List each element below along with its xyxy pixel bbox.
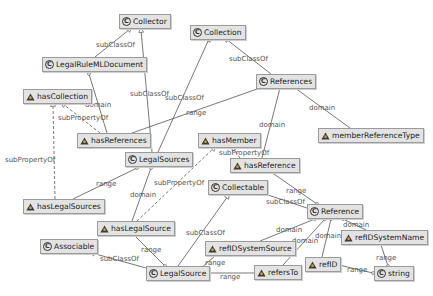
class-icon: C [377,269,386,278]
class-icon: C [45,60,54,69]
edge-label-subclassof: subClassOf [130,90,169,98]
node-label: Collection [204,28,242,37]
node-has-legal-source[interactable]: hasLegalSource [97,221,175,236]
object-property-icon [257,269,266,277]
node-label: LegalRuleMLDocument [56,60,143,69]
object-property-icon [26,93,35,101]
class-icon: C [128,155,137,164]
node-has-collection[interactable]: hasCollection [23,89,92,104]
node-label: refIDSystemName [355,233,424,242]
edge-label-subclassof: subClassOf [186,229,225,237]
node-label: refID [319,260,337,269]
node-label: refIDSystemSource [219,244,292,253]
edge-label-domain: domain [315,232,341,240]
node-label: hasReferences [91,136,147,145]
edge-label-subpropertyof: subPropertyOf [5,156,55,164]
edge-label-domain: domain [130,191,156,199]
edge-label-range: range [347,266,367,274]
edge-label-range: range [186,109,206,117]
node-label: Associable [54,242,94,251]
node-references[interactable]: C References [256,74,316,89]
node-ref-id[interactable]: refID [305,257,341,272]
node-ref-id-system-source[interactable]: refIDSystemSource [205,241,296,256]
node-has-reference[interactable]: hasReference [230,158,300,173]
edge-label-domain: domain [259,121,285,129]
node-collectable[interactable]: C Collectable [208,180,268,195]
node-label: hasMember [212,136,257,145]
class-icon: C [193,28,202,37]
class-icon: C [43,242,52,251]
node-refers-to[interactable]: refersTo [254,265,302,280]
node-label: LegalSource [160,269,206,278]
edge-label-subclassof: subClassOf [165,94,204,102]
node-legal-sources[interactable]: C LegalSources [125,152,193,167]
edge-label-range: range [286,187,306,195]
object-property-icon [344,234,353,242]
edge-label-range: range [96,180,116,188]
node-label: Collectable [222,183,264,192]
node-has-references[interactable]: hasReferences [77,133,151,148]
edge-label-domain: domain [309,104,335,112]
node-label: hasReference [244,161,296,170]
node-string[interactable]: C string [374,266,414,281]
class-icon: C [310,207,319,216]
edge-label-range: range [376,254,396,262]
node-legal-source[interactable]: C LegalSource [146,266,210,281]
object-property-icon [308,261,317,269]
node-label: hasCollection [37,92,88,101]
object-property-icon [80,137,89,145]
edge-label-domain: domain [276,226,302,234]
node-associable[interactable]: C Associable [40,239,98,254]
edge-label-subpropertyof: subPropertyOf [58,114,108,122]
edge-label-range: range [141,246,161,254]
node-label: hasLegalSource [111,224,171,233]
class-icon: C [122,17,131,26]
object-property-icon [233,162,242,170]
node-label: hasLegalSources [37,202,101,211]
node-label: memberReferenceType [332,131,420,140]
edge-label-domain: domain [343,221,369,229]
edge-label-subpropertyof: subPropertyOf [219,149,269,157]
node-label: Reference [321,207,359,216]
object-property-icon [208,245,217,253]
node-member-reference-type[interactable]: memberReferenceType [318,128,424,143]
object-property-icon [201,137,210,145]
node-legalruleml-document[interactable]: C LegalRuleMLDocument [42,57,147,72]
object-property-icon [26,203,35,211]
node-collector[interactable]: C Collector [119,14,171,29]
object-property-icon [321,132,330,140]
class-icon: C [149,269,158,278]
node-label: References [270,77,312,86]
node-reference[interactable]: C Reference [307,204,363,219]
node-has-legal-sources[interactable]: hasLegalSources [23,199,105,214]
edge-label-subclassof: subClassOf [229,55,268,63]
edge-label-subpropertyof: subPropertyOf [154,179,204,187]
class-icon: C [259,77,268,86]
class-icon: C [211,183,220,192]
ontology-graph-canvas[interactable]: subClassOf subClassOf subClassOf subClas… [0,0,433,296]
node-label: Collector [133,17,167,26]
edge-label-subclassof: subClassOf [266,198,305,206]
node-has-member[interactable]: hasMember [198,133,261,148]
edge-label-subclassof: subClassOf [100,255,139,263]
edge-label-range: range [220,273,240,281]
node-label: LegalSources [139,155,189,164]
node-label: refersTo [268,268,298,277]
node-ref-id-system-name[interactable]: refIDSystemName [341,230,428,245]
edge-label-subclassof: subClassOf [96,41,135,49]
object-property-icon [100,225,109,233]
node-collection[interactable]: C Collection [190,25,246,40]
node-label: string [388,269,410,278]
